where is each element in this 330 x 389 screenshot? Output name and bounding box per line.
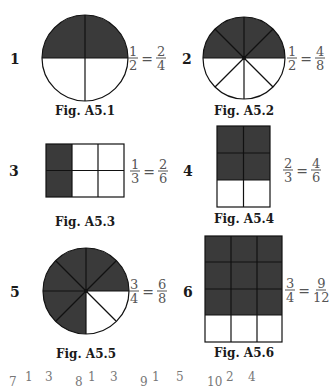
- fig-3-number: 3: [9, 163, 19, 179]
- numerator: 3: [285, 277, 295, 291]
- footer-fragment: 3: [110, 370, 118, 384]
- fig-5-number: 5: [10, 284, 20, 300]
- fig-6-number: 6: [183, 284, 193, 300]
- equals-sign: =: [296, 162, 308, 178]
- fig-3-equation: 13 = 26: [130, 158, 168, 185]
- equals-sign: =: [300, 50, 312, 66]
- denominator: 2: [288, 59, 296, 72]
- fig-4-caption: Fig. A5.4: [214, 212, 274, 226]
- equals-sign: =: [141, 50, 153, 66]
- fig-1-caption: Fig. A5.1: [55, 104, 115, 118]
- numerator: 1: [130, 158, 140, 172]
- footer-fragment: 9: [140, 375, 148, 389]
- footer-fragment: 10: [207, 375, 222, 389]
- fig-3-rectangle: [46, 144, 124, 197]
- equals-sign: =: [298, 282, 310, 298]
- denominator: 4: [130, 292, 138, 305]
- fig-4-number: 4: [183, 163, 193, 179]
- equals-sign: =: [143, 163, 155, 179]
- fig-5-equation: 34 = 68: [129, 278, 167, 305]
- footer-cutoff-text: 7 1 3 8 1 3 9 1 5 10 2 4: [0, 370, 324, 385]
- footer-fragment: 1: [152, 370, 160, 384]
- fig-5-caption: Fig. A5.5: [56, 347, 116, 361]
- numerator: 4: [315, 45, 325, 59]
- fig-4-rectangle: [217, 126, 270, 207]
- fig-2-caption: Fig. A5.2: [214, 104, 274, 118]
- numerator: 3: [129, 278, 139, 292]
- footer-fragment: 7: [9, 375, 17, 389]
- fig-5-circle: [43, 248, 129, 334]
- fig-1-equation: 12 = 24: [128, 45, 166, 72]
- numerator: 2: [283, 157, 293, 171]
- equals-sign: =: [142, 283, 154, 299]
- fig-6-caption: Fig. A5.6: [214, 346, 274, 360]
- denominator: 8: [158, 292, 166, 305]
- footer-fragment: 1: [88, 370, 96, 384]
- fig-2-circle: [203, 17, 285, 99]
- fig-1-number: 1: [10, 51, 20, 67]
- numerator: 2: [158, 158, 168, 172]
- footer-fragment: 4: [248, 370, 256, 384]
- footer-fragment: 1: [25, 370, 33, 384]
- fig-1-circle: [42, 15, 128, 101]
- footer-fragment: 3: [45, 370, 53, 384]
- denominator: 3: [131, 172, 139, 185]
- fig-6-rectangle: [205, 236, 282, 342]
- fig-2-number: 2: [182, 51, 192, 67]
- denominator: 8: [316, 59, 324, 72]
- denominator: 2: [129, 59, 137, 72]
- fig-2-equation: 12 = 48: [287, 45, 325, 72]
- denominator: 4: [286, 291, 294, 304]
- numerator: 1: [287, 45, 297, 59]
- denominator: 6: [159, 172, 167, 185]
- fig-4-equation: 23 = 46: [283, 157, 321, 184]
- numerator: 6: [157, 278, 167, 292]
- fig-3-caption: Fig. A5.3: [55, 215, 115, 229]
- footer-fragment: 5: [176, 370, 184, 384]
- footer-fragment: 2: [226, 370, 234, 384]
- numerator: 1: [128, 45, 138, 59]
- denominator: 12: [313, 291, 330, 304]
- footer-fragment: 8: [75, 375, 83, 389]
- numerator: 4: [311, 157, 321, 171]
- denominator: 6: [312, 171, 320, 184]
- denominator: 4: [157, 59, 165, 72]
- numerator: 2: [156, 45, 166, 59]
- numerator: 9: [316, 277, 326, 291]
- fig-6-equation: 34 = 912: [285, 277, 330, 304]
- denominator: 3: [284, 171, 292, 184]
